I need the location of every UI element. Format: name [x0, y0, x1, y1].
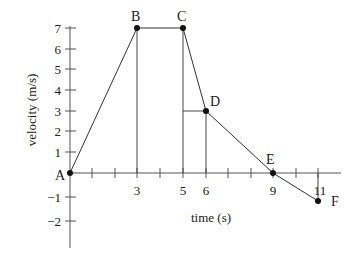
data-points [67, 25, 321, 204]
point-f [315, 198, 321, 204]
x-tick-5: 5 [180, 183, 187, 198]
x-tick-11: 11 [314, 183, 327, 198]
point-a [67, 170, 73, 176]
x-tick-3: 3 [134, 183, 141, 198]
y-tick-6: 6 [55, 42, 62, 57]
label-d: D [210, 94, 220, 109]
label-f: F [331, 194, 339, 209]
label-c: C [177, 9, 186, 24]
y-tick-4: 4 [55, 83, 62, 98]
y-tick-7: 7 [55, 21, 62, 36]
label-b: B [131, 9, 140, 24]
point-e [270, 170, 276, 176]
x-tick-9: 9 [270, 183, 277, 198]
y-tick-1: 1 [55, 145, 62, 160]
point-labels: A B C D E F [55, 9, 339, 209]
point-d [203, 108, 209, 114]
x-axis-title: time (s) [191, 210, 231, 225]
x-tick-6: 6 [203, 183, 210, 198]
label-a: A [55, 168, 66, 183]
velocity-curve [70, 28, 318, 201]
y-tick-labels: 7 6 5 4 3 2 1 −1 −2 [47, 21, 61, 229]
x-tick-labels: 3 5 6 9 11 [134, 183, 327, 198]
y-tick-neg2: −2 [47, 214, 61, 229]
y-tick-2: 2 [55, 124, 62, 139]
y-tick-3: 3 [55, 104, 62, 119]
point-b [134, 25, 140, 31]
y-tick-5: 5 [55, 62, 62, 77]
velocity-time-diagram: 7 6 5 4 3 2 1 −1 −2 3 5 6 9 11 velocity … [0, 0, 358, 263]
label-e: E [266, 152, 275, 167]
y-tick-neg1: −1 [47, 190, 61, 205]
y-axis-title: velocity (m/s) [24, 74, 39, 147]
point-c [180, 25, 186, 31]
